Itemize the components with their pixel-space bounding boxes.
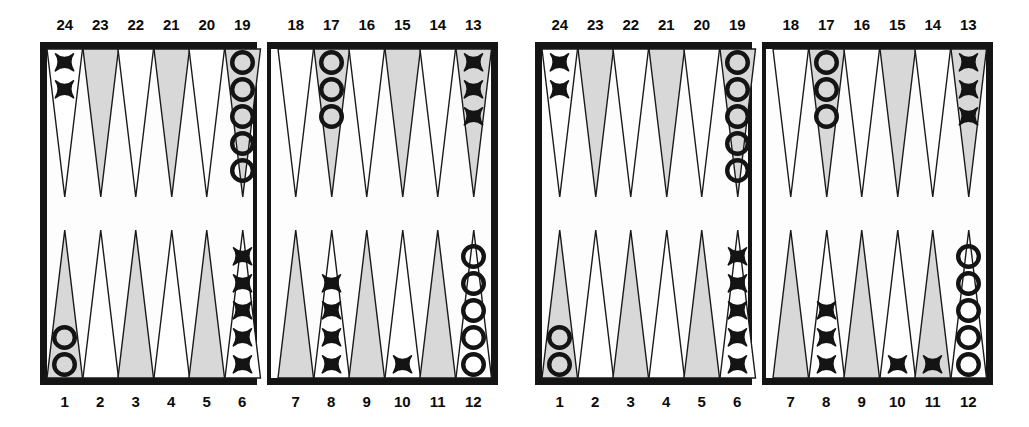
point-2[interactable] — [578, 230, 614, 378]
point-14[interactable] — [915, 49, 951, 197]
point-1[interactable] — [542, 230, 578, 378]
checker-o[interactable] — [955, 324, 982, 351]
point-5[interactable] — [189, 230, 225, 378]
checker-x[interactable] — [884, 351, 911, 378]
checker-stack-10[interactable] — [385, 351, 421, 378]
checker-o[interactable] — [724, 76, 751, 103]
checker-x[interactable] — [460, 103, 487, 130]
checker-o[interactable] — [813, 49, 840, 76]
checker-x[interactable] — [318, 351, 345, 378]
checker-stack-13[interactable] — [951, 49, 987, 130]
checker-x[interactable] — [389, 351, 416, 378]
checker-o[interactable] — [724, 103, 751, 130]
checker-o[interactable] — [813, 103, 840, 130]
checker-stack-8[interactable] — [809, 297, 845, 378]
checker-x[interactable] — [724, 297, 751, 324]
checker-x[interactable] — [229, 351, 256, 378]
point-9[interactable] — [349, 230, 385, 378]
checker-x[interactable] — [546, 49, 573, 76]
point-23[interactable] — [578, 49, 614, 197]
point-8[interactable] — [809, 230, 845, 378]
checker-x[interactable] — [51, 49, 78, 76]
checker-x[interactable] — [229, 297, 256, 324]
point-6[interactable] — [720, 230, 756, 378]
checker-o[interactable] — [955, 270, 982, 297]
checker-stack-6[interactable] — [720, 243, 756, 378]
point-11[interactable] — [915, 230, 951, 378]
point-8[interactable] — [314, 230, 350, 378]
checker-o[interactable] — [51, 351, 78, 378]
point-3[interactable] — [613, 230, 649, 378]
checker-o[interactable] — [813, 76, 840, 103]
checker-o[interactable] — [724, 49, 751, 76]
checker-x[interactable] — [318, 297, 345, 324]
point-10[interactable] — [880, 230, 916, 378]
point-22[interactable] — [613, 49, 649, 197]
checker-stack-12[interactable] — [951, 243, 987, 378]
checker-o[interactable] — [460, 243, 487, 270]
point-6[interactable] — [225, 230, 261, 378]
checker-o[interactable] — [318, 49, 345, 76]
checker-o[interactable] — [229, 130, 256, 157]
checker-stack-19[interactable] — [225, 49, 261, 184]
point-12[interactable] — [951, 230, 987, 378]
checker-o[interactable] — [460, 297, 487, 324]
point-17[interactable] — [314, 49, 350, 197]
checker-stack-17[interactable] — [809, 49, 845, 130]
checker-stack-1[interactable] — [542, 324, 578, 378]
point-24[interactable] — [542, 49, 578, 197]
point-4[interactable] — [649, 230, 685, 378]
checker-stack-13[interactable] — [456, 49, 492, 130]
checker-stack-1[interactable] — [47, 324, 83, 378]
checker-stack-10[interactable] — [880, 351, 916, 378]
point-21[interactable] — [154, 49, 190, 197]
point-15[interactable] — [385, 49, 421, 197]
point-18[interactable] — [773, 49, 809, 197]
point-20[interactable] — [189, 49, 225, 197]
point-14[interactable] — [420, 49, 456, 197]
checker-o[interactable] — [724, 130, 751, 157]
point-7[interactable] — [278, 230, 314, 378]
checker-x[interactable] — [724, 270, 751, 297]
checker-x[interactable] — [546, 76, 573, 103]
checker-o[interactable] — [229, 49, 256, 76]
point-1[interactable] — [47, 230, 83, 378]
point-9[interactable] — [844, 230, 880, 378]
checker-o[interactable] — [460, 351, 487, 378]
checker-o[interactable] — [51, 324, 78, 351]
checker-x[interactable] — [919, 351, 946, 378]
checker-o[interactable] — [318, 103, 345, 130]
checker-x[interactable] — [51, 76, 78, 103]
point-4[interactable] — [154, 230, 190, 378]
point-11[interactable] — [420, 230, 456, 378]
point-13[interactable] — [456, 49, 492, 197]
point-21[interactable] — [649, 49, 685, 197]
point-15[interactable] — [880, 49, 916, 197]
checker-o[interactable] — [955, 351, 982, 378]
point-12[interactable] — [456, 230, 492, 378]
checker-o[interactable] — [460, 270, 487, 297]
checker-stack-11[interactable] — [915, 351, 951, 378]
checker-o[interactable] — [229, 76, 256, 103]
point-24[interactable] — [47, 49, 83, 197]
checker-x[interactable] — [318, 324, 345, 351]
checker-o[interactable] — [460, 324, 487, 351]
checker-o[interactable] — [229, 103, 256, 130]
point-3[interactable] — [118, 230, 154, 378]
checker-stack-8[interactable] — [314, 270, 350, 378]
point-5[interactable] — [684, 230, 720, 378]
checker-x[interactable] — [955, 103, 982, 130]
point-19[interactable] — [225, 49, 261, 197]
checker-o[interactable] — [955, 297, 982, 324]
checker-x[interactable] — [229, 243, 256, 270]
checker-x[interactable] — [955, 49, 982, 76]
point-2[interactable] — [83, 230, 119, 378]
checker-x[interactable] — [813, 297, 840, 324]
point-22[interactable] — [118, 49, 154, 197]
checker-x[interactable] — [724, 324, 751, 351]
checker-stack-12[interactable] — [456, 243, 492, 378]
checker-x[interactable] — [813, 351, 840, 378]
point-19[interactable] — [720, 49, 756, 197]
point-23[interactable] — [83, 49, 119, 197]
checker-o[interactable] — [546, 324, 573, 351]
